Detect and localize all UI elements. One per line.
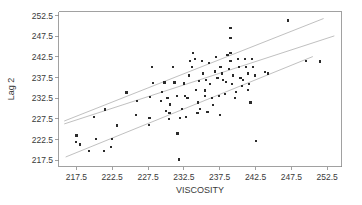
data-point bbox=[242, 79, 244, 81]
data-point bbox=[225, 81, 227, 83]
data-point bbox=[75, 134, 77, 136]
data-point bbox=[229, 37, 231, 39]
data-point bbox=[218, 95, 220, 97]
data-point bbox=[201, 60, 203, 62]
data-point bbox=[135, 114, 137, 116]
data-point bbox=[181, 108, 183, 110]
plot-frame bbox=[59, 12, 342, 167]
data-point bbox=[148, 117, 150, 119]
y-tick-label: 247.5 bbox=[32, 31, 54, 41]
data-point bbox=[166, 97, 168, 99]
data-point bbox=[222, 79, 224, 81]
data-point bbox=[234, 97, 236, 99]
regression-fit-line bbox=[64, 36, 334, 124]
data-point bbox=[179, 117, 181, 119]
x-tick-label: 242.5 bbox=[245, 172, 267, 182]
data-point bbox=[247, 89, 249, 91]
y-tick-label: 222.5 bbox=[32, 135, 54, 145]
data-point bbox=[211, 97, 213, 99]
data-point bbox=[206, 111, 208, 113]
y-axis-title: Lag 2 bbox=[6, 78, 16, 101]
data-point bbox=[188, 74, 190, 76]
data-point bbox=[231, 83, 233, 85]
data-point bbox=[209, 83, 211, 85]
data-point bbox=[319, 60, 321, 62]
data-point bbox=[267, 72, 269, 74]
data-point bbox=[204, 89, 206, 91]
data-point bbox=[232, 74, 234, 76]
data-point bbox=[185, 116, 187, 118]
data-point bbox=[152, 82, 154, 84]
data-point bbox=[125, 91, 127, 93]
y-tick-label: 217.5 bbox=[32, 155, 54, 165]
data-point bbox=[178, 158, 180, 160]
x-tick-label: 237.5 bbox=[209, 172, 231, 182]
data-point bbox=[79, 143, 81, 145]
data-point bbox=[148, 124, 150, 126]
data-point bbox=[95, 138, 97, 140]
data-point bbox=[116, 124, 118, 126]
data-point bbox=[254, 74, 256, 76]
data-point bbox=[226, 54, 228, 56]
data-point bbox=[197, 101, 199, 103]
data-point bbox=[149, 96, 151, 98]
data-point bbox=[151, 66, 153, 68]
x-tick-label: 217.5 bbox=[66, 172, 88, 182]
data-point bbox=[238, 66, 240, 68]
data-point bbox=[229, 60, 231, 62]
data-point bbox=[169, 103, 171, 105]
data-point bbox=[255, 140, 257, 142]
data-point bbox=[161, 91, 163, 93]
y-tick-label: 242.5 bbox=[32, 52, 54, 62]
data-point bbox=[224, 93, 226, 95]
data-point bbox=[219, 114, 221, 116]
x-tick-label: 252.5 bbox=[317, 172, 339, 182]
data-point bbox=[245, 66, 247, 68]
data-point bbox=[176, 132, 178, 134]
data-point bbox=[168, 112, 170, 114]
data-point bbox=[110, 146, 112, 148]
data-point bbox=[216, 77, 218, 79]
data-point bbox=[247, 72, 249, 74]
data-point bbox=[186, 97, 188, 99]
data-point bbox=[183, 82, 185, 84]
data-point bbox=[212, 104, 214, 106]
data-point bbox=[239, 77, 241, 79]
data-point bbox=[184, 95, 186, 97]
data-point bbox=[219, 66, 221, 68]
data-point bbox=[168, 118, 170, 120]
data-point bbox=[163, 81, 165, 83]
y-tick-label: 252.5 bbox=[32, 11, 54, 21]
chart-canvas: 217.5222.5227.5232.5237.5242.5247.5252.5… bbox=[0, 0, 362, 205]
data-point bbox=[228, 68, 230, 70]
data-point bbox=[221, 72, 223, 74]
data-point bbox=[244, 58, 246, 60]
data-point bbox=[205, 79, 207, 81]
data-point bbox=[93, 116, 95, 118]
data-point bbox=[195, 89, 197, 91]
data-point bbox=[202, 72, 204, 74]
data-point bbox=[104, 108, 106, 110]
data-point bbox=[248, 83, 250, 85]
data-point bbox=[264, 71, 266, 73]
data-point bbox=[287, 19, 289, 21]
data-point bbox=[252, 66, 254, 68]
data-point bbox=[229, 27, 231, 29]
data-points bbox=[75, 19, 322, 160]
data-point bbox=[111, 138, 113, 140]
data-point bbox=[75, 141, 77, 143]
data-point bbox=[172, 66, 174, 68]
data-point bbox=[249, 101, 251, 103]
data-point bbox=[173, 81, 175, 83]
x-tick-label: 222.5 bbox=[102, 172, 124, 182]
data-point bbox=[194, 58, 196, 60]
x-axis-title: VISCOSITY bbox=[176, 185, 224, 195]
data-point bbox=[196, 112, 198, 114]
data-point bbox=[204, 95, 206, 97]
data-point bbox=[235, 91, 237, 93]
data-point bbox=[208, 62, 210, 64]
data-point bbox=[165, 110, 167, 112]
data-point bbox=[191, 66, 193, 68]
y-tick-label: 237.5 bbox=[32, 73, 54, 83]
data-point bbox=[241, 85, 243, 87]
